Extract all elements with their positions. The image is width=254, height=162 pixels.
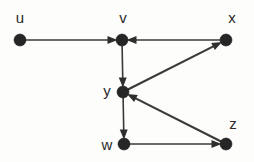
node-label-w: w	[102, 137, 113, 152]
graph-figure: uvxywz	[0, 0, 254, 162]
edge-v-y	[122, 45, 123, 79]
arrowhead-y-x	[211, 42, 222, 50]
node-label-u: u	[16, 10, 24, 25]
node-label-z: z	[229, 116, 237, 131]
node-x[interactable]	[220, 34, 232, 46]
arrowhead-z-y	[127, 94, 138, 102]
node-label-v: v	[119, 10, 127, 25]
node-w[interactable]	[118, 138, 130, 150]
node-label-y: y	[103, 83, 111, 98]
node-label-x: x	[228, 10, 236, 25]
node-u[interactable]	[14, 34, 26, 46]
edge-y-x	[128, 46, 215, 90]
node-v[interactable]	[116, 34, 128, 46]
node-y[interactable]	[117, 86, 129, 98]
edge-z-y	[134, 98, 221, 142]
edge-y-w	[123, 97, 124, 131]
node-z[interactable]	[220, 138, 232, 150]
